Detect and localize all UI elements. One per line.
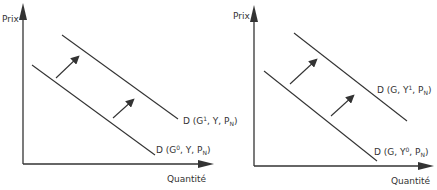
upper-curve-label: D (G, Y1, PN) [377,84,432,96]
y-axis-arrow-icon [250,5,258,22]
x-axis-label: Quantité [391,176,431,186]
demand-curve-upper [62,35,178,119]
lower-curve-label: D (G0, Y, PN) [156,144,211,156]
x-axis-arrow-icon [418,162,434,170]
y-axis-label: Prix [2,14,19,24]
shift-arrow-icon [290,60,316,84]
demand-shift-diagram: Prix Quantité D (G1, Y, PN) D (G0, Y, PN… [0,0,437,190]
shift-arrow-icon [56,57,78,78]
y-axis-arrow-icon [19,3,27,20]
lower-curve-label: D (G, Y0, PN) [374,146,429,158]
panel-right-income: Prix Quantité D (G, Y1, PN) D (G, Y0, PN… [233,5,434,186]
panel-left-government-spending: Prix Quantité D (G1, Y, PN) D (G0, Y, PN… [2,3,238,184]
demand-curve-lower [32,65,155,155]
upper-curve-label: D (G1, Y, PN) [183,115,238,127]
x-axis-arrow-icon [198,160,214,168]
shift-arrow-icon [331,96,353,116]
shift-arrow-icon [113,100,133,118]
y-axis-label: Prix [233,11,250,21]
x-axis-label: Quantité [167,174,207,184]
